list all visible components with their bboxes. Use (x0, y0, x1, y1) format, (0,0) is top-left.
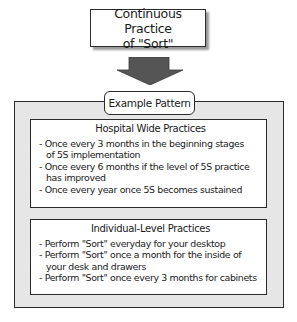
list-item: - Perform "Sort" once a month for the in… (39, 249, 262, 272)
section-title: Hospital Wide Practices (39, 123, 262, 135)
title-line-2: of "Sort" (123, 36, 173, 51)
example-pattern-label: Example Pattern (104, 91, 195, 115)
down-arrow-icon (116, 57, 184, 85)
list-item: - Once every year once 5S becomes sustai… (39, 184, 262, 196)
list-item: - Once every 6 months if the level of 5S… (39, 161, 262, 184)
list-item: - Perform "Sort" everyday for your deskt… (39, 238, 262, 250)
section-title: Individual-Level Practices (39, 223, 262, 235)
hospital-wide-practices-box: Hospital Wide Practices - Once every 3 m… (30, 119, 267, 208)
list-item: - Once every 3 months in the beginning s… (39, 138, 262, 161)
list-item: - Perform "Sort" once every 3 months for… (39, 272, 262, 284)
title-box: Continuous Practice of "Sort" (90, 9, 206, 47)
title-line-1: Continuous Practice (91, 6, 205, 36)
individual-level-practices-box: Individual-Level Practices - Perform "So… (30, 219, 267, 295)
